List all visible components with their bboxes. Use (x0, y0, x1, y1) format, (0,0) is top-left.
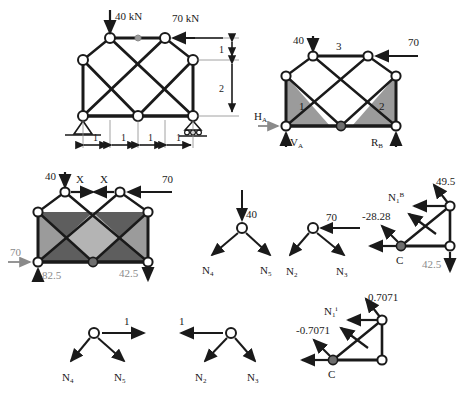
joint-C-marker (336, 121, 345, 130)
joint-C-marker-fig3 (88, 257, 97, 266)
dim-vertical-2: 2 (219, 83, 224, 94)
dim-h-1: 1 (93, 132, 98, 143)
member-arrow-N2 (290, 233, 309, 255)
reaction-label-70: 70 (10, 246, 22, 258)
force-arrow-C-diagonal (314, 340, 330, 356)
dim-h-3: 1 (148, 132, 153, 143)
member-label-N5: N5 (114, 371, 126, 385)
load-label-70: 70 (408, 36, 420, 48)
joint-C-node (328, 355, 337, 364)
reaction-label-42: 42.5 (119, 267, 139, 279)
load-label-70kn: 70 kN (172, 12, 199, 24)
force-arrow-minus28 (409, 214, 436, 234)
load-label-40kn: 40 kN (115, 10, 142, 22)
member-label-N4: N4 (62, 371, 74, 385)
force-label-0707: 0.7071 (368, 291, 398, 303)
force-arrow-49 (434, 185, 448, 203)
force-label-42: 42.5 (422, 258, 442, 270)
member-label-N2: N2 (195, 371, 207, 385)
member-label-1: 1 (299, 100, 305, 112)
force-label-N1i: N1i (324, 305, 337, 319)
reaction-label-VA: VA (290, 136, 303, 150)
joint-node (237, 223, 247, 233)
midspan-marker (135, 35, 141, 41)
force-label-49: 49.5 (436, 175, 456, 187)
applied-load-label-70: 70 (326, 211, 338, 223)
member-arrow-N3 (317, 233, 344, 255)
force-arrow-minus0707 (341, 328, 368, 348)
figure-joint-fbd-unit-right: 1 N2 N3 (163, 305, 258, 390)
force-label-minus0707: -0.7071 (296, 324, 330, 336)
member-label-N3: N3 (247, 371, 259, 385)
unit-load-label: 1 (124, 315, 130, 327)
member-label-3: 3 (336, 40, 342, 52)
joint-node (89, 328, 99, 338)
load-label-70-fig3: 70 (162, 173, 174, 185)
member-arrow-N3 (235, 338, 255, 361)
redundant-label-X-left: X (76, 173, 84, 185)
dim-h-2: 1 (121, 132, 126, 143)
load-label-40: 40 (293, 34, 305, 46)
member-label-N5: N5 (260, 264, 272, 278)
reaction-label-RB: RB (371, 136, 383, 150)
joint-C-node (396, 241, 405, 250)
force-arrow-C-diagonal (382, 226, 398, 242)
member-label-N2: N2 (286, 265, 298, 279)
member-arrow-N2 (205, 338, 227, 361)
figure-joint-fbd-unit-left: 1 N4 N5 (68, 305, 163, 390)
joint-node (308, 223, 318, 233)
dim-h-4: 1 (176, 132, 181, 143)
member-label-N4: N4 (202, 264, 214, 278)
figure-section-fbd-unit: 0.7071 N1i -0.7071 C (300, 292, 410, 392)
member-label-N3: N3 (336, 265, 348, 279)
reaction-label-82: 82.5 (42, 269, 62, 281)
reaction-label-HA: HA (254, 110, 267, 124)
redundant-label-X-right: X (100, 173, 108, 185)
applied-load-label: 40 (246, 208, 258, 220)
joint-label-C: C (396, 254, 403, 266)
member-arrow-N5 (246, 233, 270, 255)
force-label-minus28: -28.28 (362, 210, 391, 222)
member-arrow-N4 (71, 338, 90, 361)
unit-load-label: 1 (179, 315, 185, 327)
figure-joint-fbd-40: 40 N4 N5 (200, 188, 285, 278)
member-arrow-N5 (98, 338, 124, 361)
figure-original-truss: 40 kN 70 kN 1 2 (55, 8, 250, 153)
joint-label-C: C (328, 368, 335, 380)
force-label-N1B: N1B (388, 191, 404, 205)
figure-truss-reactions: 40 70 3 1 2 HA VA RB (268, 34, 448, 149)
member-label-2: 2 (379, 100, 385, 112)
joint-node (226, 328, 236, 338)
member-arrow-N4 (212, 233, 238, 255)
dim-vertical-1: 1 (219, 44, 224, 55)
figure-released-structure: 40 X X 70 70 82.5 42.5 (14, 170, 199, 280)
figure-section-fbd-real: 49.5 N1B -28.28 C 42.5 (368, 176, 473, 281)
load-label-40-fig3: 40 (45, 170, 57, 182)
